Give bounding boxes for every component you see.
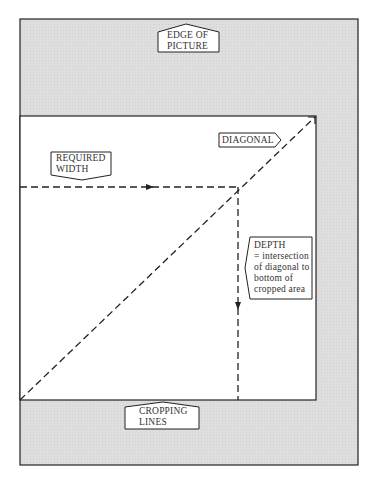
cropping-lines-label: CROPPING LINES (139, 406, 188, 428)
depth-label: DEPTH = intersection of diagonal to bott… (254, 240, 310, 295)
label-line: LINES (139, 417, 188, 428)
label-line: of diagonal to (254, 262, 310, 273)
label-line: bottom of (254, 273, 310, 284)
label-line: = intersection (254, 251, 310, 262)
label-line: WIDTH (56, 164, 106, 175)
label-line: EDGE OF (167, 30, 208, 41)
edge-of-picture-label: EDGE OF PICTURE (167, 30, 208, 52)
label-line: PICTURE (167, 41, 208, 52)
label-line: DEPTH (254, 240, 310, 251)
diagonal-label: DIAGONAL (222, 135, 274, 146)
label-line: CROPPING (139, 406, 188, 417)
required-width-label: REQUIRED WIDTH (56, 153, 106, 175)
label-line: cropped area (254, 284, 310, 295)
label-line: REQUIRED (56, 153, 106, 164)
